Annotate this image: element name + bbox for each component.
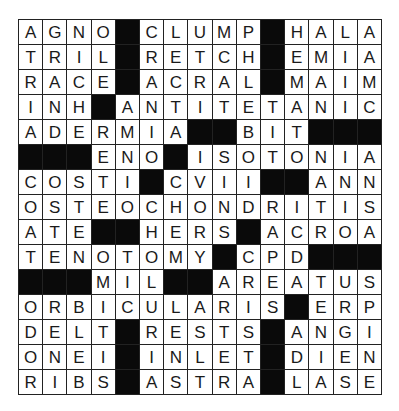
letter-cell[interactable]: T (309, 270, 332, 294)
letter-cell[interactable]: C (213, 45, 236, 69)
letter-cell[interactable]: R (140, 45, 163, 69)
letter-cell[interactable]: A (358, 220, 381, 244)
letter-cell[interactable]: A (285, 320, 308, 344)
letter-cell[interactable]: I (358, 320, 381, 344)
letter-cell[interactable]: S (213, 145, 236, 169)
letter-cell[interactable]: R (213, 295, 236, 319)
letter-cell[interactable]: T (261, 145, 284, 169)
letter-cell[interactable]: A (237, 370, 260, 394)
letter-cell[interactable]: A (140, 70, 163, 94)
letter-cell[interactable]: E (164, 220, 187, 244)
letter-cell[interactable]: E (92, 145, 115, 169)
letter-cell[interactable]: G (43, 20, 66, 44)
letter-cell[interactable]: R (334, 295, 357, 319)
letter-cell[interactable]: E (164, 45, 187, 69)
letter-cell[interactable]: R (140, 320, 163, 344)
letter-cell[interactable]: T (188, 370, 211, 394)
letter-cell[interactable]: H (237, 45, 260, 69)
letter-cell[interactable]: E (309, 295, 332, 319)
letter-cell[interactable]: O (19, 345, 42, 369)
letter-cell[interactable]: S (237, 320, 260, 344)
letter-cell[interactable]: U (334, 270, 357, 294)
letter-cell[interactable]: P (237, 20, 260, 44)
letter-cell[interactable]: T (213, 95, 236, 119)
letter-cell[interactable]: I (309, 345, 332, 369)
letter-cell[interactable]: L (334, 20, 357, 44)
letter-cell[interactable]: R (261, 195, 284, 219)
letter-cell[interactable]: O (19, 195, 42, 219)
letter-cell[interactable]: A (358, 20, 381, 44)
letter-cell[interactable]: L (67, 320, 90, 344)
letter-cell[interactable]: E (92, 70, 115, 94)
letter-cell[interactable]: I (92, 295, 115, 319)
letter-cell[interactable]: O (188, 195, 211, 219)
letter-cell[interactable]: E (164, 320, 187, 344)
letter-cell[interactable]: N (43, 95, 66, 119)
letter-cell[interactable]: B (67, 295, 90, 319)
letter-cell[interactable]: A (285, 95, 308, 119)
letter-cell[interactable]: L (92, 45, 115, 69)
letter-cell[interactable]: R (188, 70, 211, 94)
letter-cell[interactable]: O (19, 295, 42, 319)
letter-cell[interactable]: C (116, 295, 139, 319)
letter-cell[interactable]: R (213, 370, 236, 394)
letter-cell[interactable]: D (43, 120, 66, 144)
letter-cell[interactable]: C (19, 170, 42, 194)
letter-cell[interactable]: L (188, 345, 211, 369)
letter-cell[interactable]: A (19, 120, 42, 144)
letter-cell[interactable]: N (309, 320, 332, 344)
letter-cell[interactable]: P (358, 295, 381, 319)
letter-cell[interactable]: H (67, 95, 90, 119)
letter-cell[interactable]: T (261, 95, 284, 119)
letter-cell[interactable]: O (334, 220, 357, 244)
letter-cell[interactable]: O (237, 145, 260, 169)
letter-cell[interactable]: B (67, 370, 90, 394)
letter-cell[interactable]: U (188, 20, 211, 44)
letter-cell[interactable]: Y (188, 245, 211, 269)
letter-cell[interactable]: O (43, 170, 66, 194)
letter-cell[interactable]: I (334, 95, 357, 119)
letter-cell[interactable]: E (261, 270, 284, 294)
letter-cell[interactable]: O (92, 245, 115, 269)
letter-cell[interactable]: C (358, 95, 381, 119)
letter-cell[interactable]: L (237, 70, 260, 94)
letter-cell[interactable]: S (334, 370, 357, 394)
letter-cell[interactable]: S (164, 370, 187, 394)
letter-cell[interactable]: E (43, 320, 66, 344)
letter-cell[interactable]: C (140, 195, 163, 219)
letter-cell[interactable]: I (116, 170, 139, 194)
letter-cell[interactable]: I (43, 370, 66, 394)
letter-cell[interactable]: R (309, 220, 332, 244)
letter-cell[interactable]: A (285, 270, 308, 294)
letter-cell[interactable]: L (164, 295, 187, 319)
letter-cell[interactable]: E (67, 120, 90, 144)
letter-cell[interactable]: S (43, 195, 66, 219)
letter-cell[interactable]: I (92, 345, 115, 369)
letter-cell[interactable]: T (213, 320, 236, 344)
letter-cell[interactable]: S (358, 195, 381, 219)
letter-cell[interactable]: D (237, 195, 260, 219)
letter-cell[interactable]: A (164, 120, 187, 144)
letter-cell[interactable]: S (67, 170, 90, 194)
letter-cell[interactable]: N (116, 145, 139, 169)
letter-cell[interactable]: I (334, 145, 357, 169)
letter-cell[interactable]: A (213, 70, 236, 94)
letter-cell[interactable]: O (92, 20, 115, 44)
letter-cell[interactable]: R (43, 45, 66, 69)
letter-cell[interactable]: H (140, 220, 163, 244)
letter-cell[interactable]: T (116, 245, 139, 269)
letter-cell[interactable]: E (67, 220, 90, 244)
letter-cell[interactable]: G (334, 320, 357, 344)
letter-cell[interactable]: A (358, 45, 381, 69)
letter-cell[interactable]: A (19, 220, 42, 244)
letter-cell[interactable]: I (237, 295, 260, 319)
letter-cell[interactable]: I (213, 170, 236, 194)
letter-cell[interactable]: I (188, 145, 211, 169)
letter-cell[interactable]: R (19, 70, 42, 94)
letter-cell[interactable]: M (164, 245, 187, 269)
letter-cell[interactable]: T (43, 220, 66, 244)
letter-cell[interactable]: A (309, 370, 332, 394)
letter-cell[interactable]: T (19, 45, 42, 69)
letter-cell[interactable]: O (140, 245, 163, 269)
letter-cell[interactable]: E (285, 45, 308, 69)
